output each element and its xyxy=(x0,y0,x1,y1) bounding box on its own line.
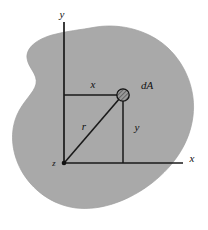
x-axis-label: x xyxy=(189,152,195,164)
mechanics-area-diagram: y x z x y r dA xyxy=(0,0,208,230)
figure-container: y x z x y r dA xyxy=(0,0,208,230)
radial-dimension-label: r xyxy=(82,120,87,132)
dA-label: dA xyxy=(141,79,154,91)
y-dimension-label: y xyxy=(134,121,140,133)
dA-marker xyxy=(117,89,129,101)
origin-dot xyxy=(62,161,67,166)
x-dimension-label: x xyxy=(90,78,96,90)
origin-label-z: z xyxy=(51,158,56,168)
y-axis-label: y xyxy=(59,8,65,20)
dA-marker-circle xyxy=(117,89,129,101)
